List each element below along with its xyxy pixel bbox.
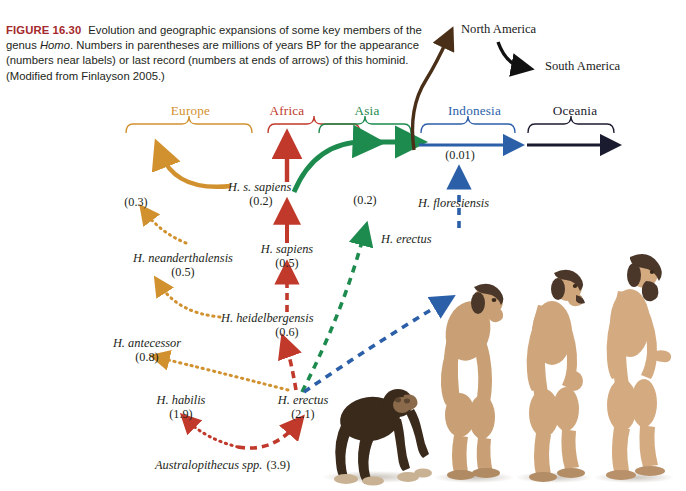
taxon-label-h-neanderthalensis: H. neanderthalensis <box>122 251 244 265</box>
destination-label-north-america: North America <box>461 22 536 36</box>
australopithecus-date: (3.9) <box>266 458 290 472</box>
taxon-date-h-s-sapiens: (0.2) <box>228 194 294 208</box>
region-brace-indonesia <box>421 116 515 133</box>
arrow-africa-to-europe <box>161 154 231 187</box>
taxon-label-h-erectus-asia: H. erectus <box>381 232 431 246</box>
taxon-label-h-s-sapiens: H. s. sapiens <box>228 180 291 194</box>
destination-label-south-america: South America <box>545 59 620 73</box>
taxon-date-h-erectus-africa: (2.1) <box>259 407 347 421</box>
taxon-date-h-heidelbergensis: (0.6) <box>254 325 320 339</box>
arrow-africa-to-asia <box>294 142 368 192</box>
taxon-date-h-habilis: (1.9) <box>135 407 227 421</box>
arrow-to-south-america <box>498 42 522 67</box>
taxon-label-h-floresiensis: H. floresiensis <box>418 196 489 210</box>
last-record-h-floresiensis: (0.01) <box>435 148 485 162</box>
region-label-asia: Asia <box>335 103 399 118</box>
region-brace-oceania <box>528 116 614 133</box>
taxon-label-h-sapiens: H. sapiens <box>246 242 328 256</box>
lineage-hneanderthalensis-last-record <box>146 213 186 243</box>
lineage-herectus-to-hheidelbergensis <box>286 346 296 390</box>
taxon-date-h-antecessor: (0.8) <box>92 350 202 364</box>
taxon-label-australopithecus: Australopithecus spp.(3.9) <box>155 458 290 472</box>
last-record-h-neanderthalensis: (0.3) <box>112 195 160 209</box>
taxon-label-h-heidelbergensis: H. heidelbergensis <box>221 311 313 325</box>
region-label-africa: Africa <box>255 103 319 118</box>
australopithecus-genus: Australopithecus spp. <box>155 458 262 472</box>
figure-16-30: FIGURE 16.30Evolution and geographic exp… <box>0 0 686 491</box>
arrow-to-north-america <box>413 38 449 150</box>
taxon-label-h-erectus-africa: H. erectus <box>259 393 347 407</box>
last-record-h-erectus-asia: (0.2) <box>341 193 389 207</box>
lineage-herectus-to-hfloresiensis <box>304 302 444 392</box>
region-brace-asia <box>319 116 411 133</box>
taxon-label-h-antecessor: H. antecessor <box>92 336 202 350</box>
lineage-australopithecus-to-herectus <box>238 425 296 448</box>
taxon-label-h-habilis: H. habilis <box>135 393 227 407</box>
lineage-australopithecus-to-hhabilis <box>188 421 238 447</box>
region-label-europe: Europe <box>126 103 255 118</box>
region-label-oceania: Oceania <box>528 103 622 118</box>
taxon-date-h-neanderthalensis: (0.5) <box>122 265 244 279</box>
region-brace-europe <box>126 116 252 133</box>
taxon-date-h-sapiens: (0.5) <box>246 256 328 270</box>
region-label-indonesia: Indonesia <box>421 103 528 118</box>
lineage-hheidelbergensis-to-hneanderthalensis <box>160 285 220 317</box>
